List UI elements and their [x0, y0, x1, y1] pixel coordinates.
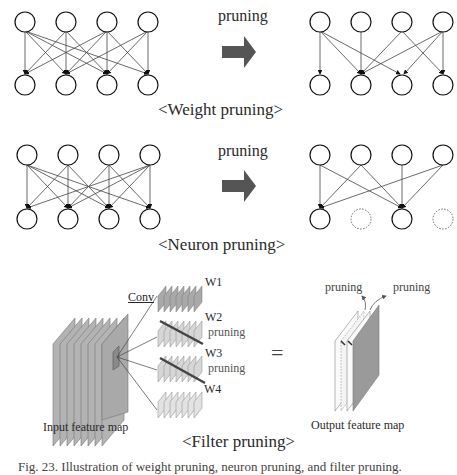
filter-w4-label: W4	[204, 382, 221, 397]
output-pruning-label-2: pruning	[393, 280, 430, 295]
filter-w2-pruning-label: pruning	[208, 325, 245, 340]
conv-label: Conv	[128, 290, 154, 305]
weight-dense-nodes	[15, 12, 158, 95]
equals-sign: =	[271, 340, 283, 366]
output-feature-map	[335, 305, 379, 411]
filter-w4	[158, 392, 202, 418]
filter-w3-label: W3	[205, 346, 222, 361]
weight-dense-network	[25, 31, 148, 74]
weight-pruning-arrow-label: pruning	[218, 7, 268, 25]
filter-w1-label: W1	[205, 275, 222, 290]
neuron-dense-network	[27, 165, 150, 208]
weight-pruned-network	[320, 31, 443, 74]
neuron-pruning-title: <Neuron pruning>	[158, 235, 285, 255]
filter-w2-label: W2	[205, 310, 222, 325]
filter-w2	[158, 321, 202, 347]
pruning-arrow-icon	[222, 36, 256, 68]
filter-pruning-title: <Filter pruning>	[182, 432, 295, 452]
input-feature-map-label: Input feature map	[43, 420, 128, 435]
figure-caption: Fig. 23. Illustration of weight pruning,…	[18, 459, 402, 475]
filter-w3-pruning-label: pruning	[208, 361, 245, 376]
weight-pruning-title: <Weight pruning>	[158, 100, 283, 120]
output-pruning-arrows	[362, 296, 386, 310]
output-pruning-label-1: pruning	[325, 280, 362, 295]
neuron-pruning-arrow-label: pruning	[218, 142, 268, 160]
weight-pruned-nodes	[310, 12, 453, 95]
filter-w1	[158, 286, 202, 312]
pruning-arrow-icon	[222, 170, 256, 202]
output-feature-map-label: Output feature map	[311, 418, 404, 433]
neuron-pruned-network	[320, 165, 443, 208]
